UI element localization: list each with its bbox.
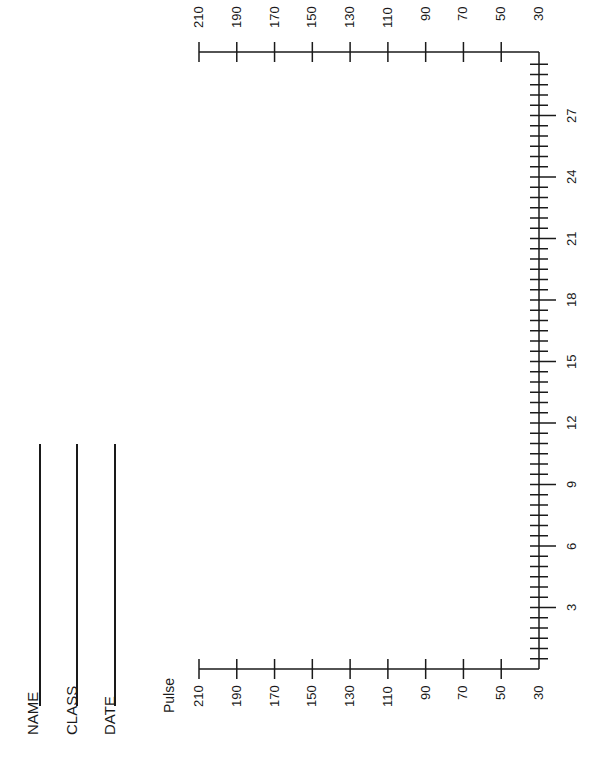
top-pulse-tick-label: 130 [342,6,357,28]
top-pulse-tick-label: 30 [531,6,546,20]
top-pulse-tick-label: 170 [267,6,282,28]
time-tick-label: 24 [564,170,579,184]
time-tick-label: 12 [564,416,579,430]
time-tick-label: 9 [564,481,579,488]
time-tick-label: 18 [564,293,579,307]
bottom-pulse-tick-label: 50 [493,685,508,699]
top-pulse-tick-label: 150 [304,6,319,28]
bottom-pulse-tick-label: 110 [380,686,395,707]
pulse-chart [0,0,606,770]
time-tick-label: 21 [564,231,579,245]
top-pulse-tick-label: 210 [191,6,206,28]
bottom-pulse-tick-label: 190 [229,685,244,707]
bottom-pulse-tick-label: 30 [531,685,546,699]
time-tick-label: 6 [564,542,579,549]
bottom-pulse-tick-label: 210 [191,685,206,707]
bottom-pulse-tick-label: 90 [418,685,433,699]
bottom-pulse-tick-label: 70 [455,685,470,699]
time-tick-label: 15 [564,354,579,368]
top-pulse-tick-label: 110 [380,7,395,28]
top-pulse-tick-label: 190 [229,6,244,28]
time-tick-label: 27 [564,108,579,122]
bottom-pulse-tick-label: 130 [342,685,357,707]
bottom-pulse-tick-label: 150 [304,685,319,707]
bottom-pulse-tick-label: 170 [267,685,282,707]
top-pulse-tick-label: 70 [455,6,470,20]
top-pulse-tick-label: 50 [493,6,508,20]
time-tick-label: 3 [564,604,579,611]
top-pulse-tick-label: 90 [418,6,433,20]
